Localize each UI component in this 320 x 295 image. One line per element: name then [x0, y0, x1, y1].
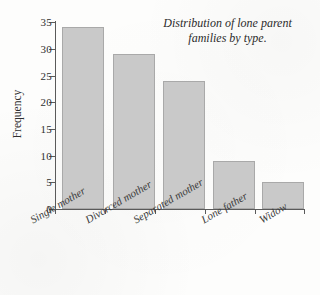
chart-title-line-1: Distribution of lone parent [140, 16, 315, 31]
y-axis-line [55, 21, 56, 210]
y-tick-label-5: 5 [12, 177, 52, 188]
x-tick-4 [255, 209, 256, 214]
y-tick-label-30: 30 [12, 44, 52, 55]
bar-single-mother[interactable] [62, 27, 104, 209]
y-axis-title: Frequency [11, 69, 23, 159]
chart-title-line-2: families by type. [140, 31, 315, 46]
y-tick-label-25: 25 [12, 71, 52, 82]
y-tick-label-35: 35 [12, 17, 52, 28]
y-tick-label-10: 10 [12, 151, 52, 162]
x-tick-5 [304, 209, 305, 214]
plot-area: Frequency 0 5 10 15 20 25 30 35 [0, 0, 320, 295]
chart-figure: Frequency 0 5 10 15 20 25 30 35 [0, 0, 320, 295]
chart-title: Distribution of lone parent families by … [140, 16, 315, 46]
y-tick-label-20: 20 [12, 97, 52, 108]
y-tick-label-15: 15 [12, 124, 52, 135]
